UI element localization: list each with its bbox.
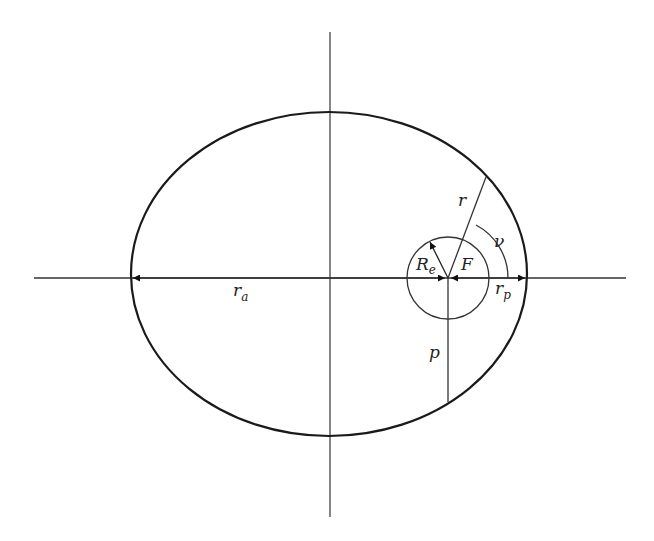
label-re: Re xyxy=(415,254,436,277)
label-ra-sub: a xyxy=(241,290,248,304)
label-focus: F xyxy=(460,254,474,274)
orbit-ellipse xyxy=(131,112,527,436)
label-rp: rp xyxy=(495,278,511,302)
label-ra: ra xyxy=(233,280,248,304)
label-re-sub: e xyxy=(429,263,436,277)
label-nu: ν xyxy=(494,231,504,251)
label-p: p xyxy=(429,342,440,362)
label-r: r xyxy=(458,190,467,210)
label-re-main: R xyxy=(415,254,429,274)
label-rp-sub: p xyxy=(503,288,511,302)
orbit-diagram: r ν Re F ra rp p xyxy=(0,0,654,541)
